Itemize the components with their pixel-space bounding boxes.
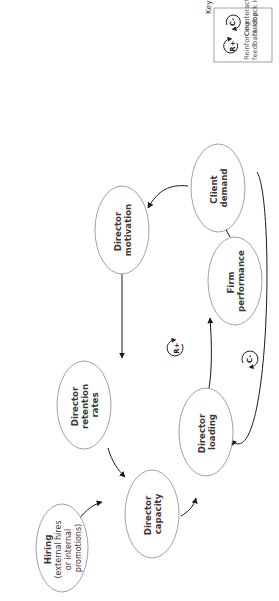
counteracting-loop-marker: C- bbox=[242, 351, 258, 367]
node-label-line: demand bbox=[219, 168, 229, 207]
node-title: Hiring bbox=[43, 535, 53, 565]
edge-hiring-to-director-capacity bbox=[80, 502, 102, 518]
key-symbol: C- bbox=[229, 18, 237, 26]
node-label-line: (external hires bbox=[54, 520, 63, 578]
node-label-line: Client bbox=[209, 175, 219, 203]
node-label-line: Firm bbox=[226, 271, 236, 293]
svg-text:Client demand: Client demand bbox=[209, 168, 229, 207]
node-label-line: Director bbox=[197, 413, 207, 453]
nodes: Client demand Director motivation Direct… bbox=[36, 144, 262, 592]
edge-director-loading-to-firm-performance bbox=[209, 318, 211, 388]
node-label-line: motivation bbox=[123, 204, 133, 256]
edge-director-retention-to-director-capacity bbox=[108, 448, 125, 477]
key-label-line: Counteracting bbox=[243, 0, 251, 36]
loop-label: C- bbox=[246, 355, 254, 363]
svg-text:Director motivation: Director motivation bbox=[113, 204, 133, 256]
node-director-capacity: Director capacity bbox=[125, 470, 179, 558]
svg-text:Director loading: Director loading bbox=[197, 411, 217, 454]
node-label-line: promotions) bbox=[74, 524, 83, 572]
node-label-line: rates bbox=[90, 392, 100, 417]
loop-label: R+ bbox=[173, 342, 181, 353]
node-label-line: Director bbox=[143, 495, 153, 535]
node-label-line: loading bbox=[207, 414, 217, 450]
key-legend: Key R+ Reinforcing feedback loop C- Coun… bbox=[204, 0, 272, 62]
svg-text:Counteracting feedback: Counteracting feedback loop bbox=[243, 0, 259, 36]
node-label-line: Director bbox=[113, 211, 123, 251]
node-director-retention-rates: Director retention rates bbox=[57, 361, 111, 449]
edge-client-demand-to-director-motivation bbox=[148, 186, 188, 208]
causal-loop-diagram: Client demand Director motivation Direct… bbox=[0, 0, 279, 601]
key-title: Key bbox=[204, 0, 213, 14]
node-firm-performance: Firm performance bbox=[208, 237, 262, 325]
node-label-line: capacity bbox=[153, 493, 163, 534]
node-hiring: Hiring (external hires or internal promo… bbox=[36, 504, 88, 592]
node-label-line: performance bbox=[236, 250, 246, 312]
edge-director-capacity-to-director-loading bbox=[181, 498, 196, 516]
node-label-line: or internal bbox=[64, 529, 73, 570]
node-label-line: Director bbox=[70, 386, 80, 426]
node-label-line: retention bbox=[80, 384, 90, 429]
key-symbol: R+ bbox=[229, 40, 237, 51]
key-label-line: feedback loop bbox=[251, 0, 259, 36]
reinforcing-loop-marker: R+ bbox=[167, 340, 183, 356]
node-director-loading: Director loading bbox=[179, 388, 233, 476]
node-client-demand: Client demand bbox=[191, 144, 245, 232]
node-director-motivation: Director motivation bbox=[95, 186, 149, 274]
svg-text:Director capacity: Director capacity bbox=[143, 493, 163, 536]
